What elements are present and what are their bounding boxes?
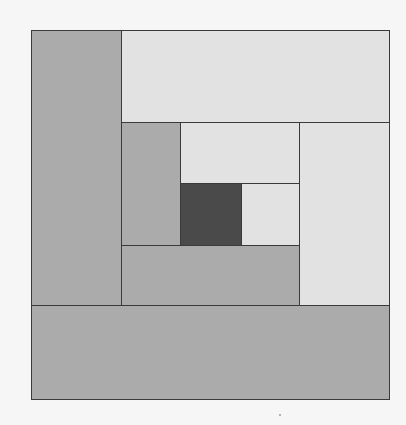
right-strip <box>299 122 390 306</box>
bottom-strip <box>31 305 390 400</box>
top-strip <box>121 30 390 123</box>
center-square <box>180 183 242 246</box>
speck-mark <box>279 414 281 416</box>
inner-bottom-strip <box>121 245 300 306</box>
inner-left-strip <box>121 122 181 246</box>
inner-right-strip <box>241 183 300 246</box>
inner-top-strip <box>180 122 300 184</box>
left-strip <box>31 30 122 306</box>
